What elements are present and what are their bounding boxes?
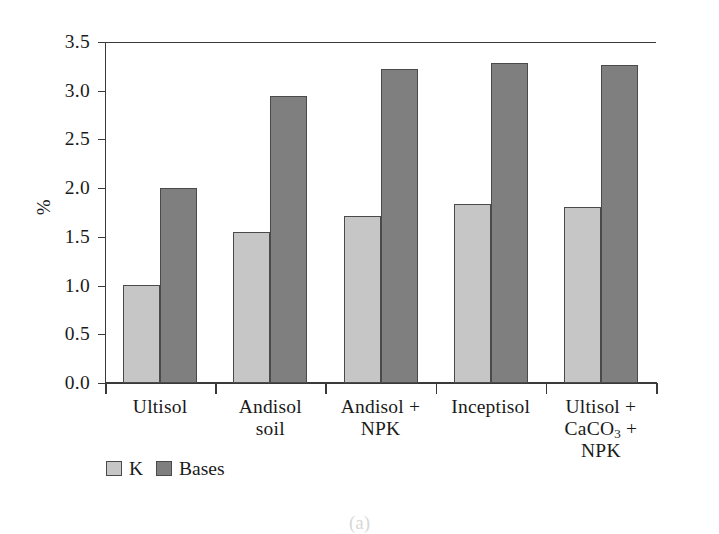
bar-bases-2 [381, 69, 418, 383]
y-tick-label: 1.0 [44, 276, 90, 296]
y-tick-label: 1.5 [44, 227, 90, 247]
x-tick-label-line: NPK [325, 418, 435, 440]
x-tick-label-line: Andisol + [325, 396, 435, 418]
x-tick-label-0: Ultisol [105, 396, 215, 418]
bars-layer [105, 42, 656, 383]
bar-bases-4 [601, 65, 638, 383]
y-tick-label: 3.5 [44, 32, 90, 52]
x-tick-label-line: CaCO3 + [546, 418, 656, 440]
bar-bases-3 [491, 63, 528, 383]
legend-entry-bases[interactable]: Bases [156, 459, 225, 479]
y-tick-label: 2.5 [44, 129, 90, 149]
x-tick-mark [656, 383, 658, 394]
y-tick-label: 0.0 [44, 373, 90, 393]
legend: KBases [106, 459, 225, 479]
x-tick-label-line: soil [215, 418, 325, 440]
bar-k-3 [454, 204, 491, 383]
x-tick-label-2: Andisol +NPK [325, 396, 435, 440]
x-tick-mark [215, 383, 217, 394]
x-tick-label-line: Andisol [215, 396, 325, 418]
bar-k-0 [123, 285, 160, 383]
light-gray-swatch [106, 461, 122, 476]
y-axis-tick-labels: 0.00.51.01.52.02.53.03.5 [44, 0, 90, 530]
bar-bases-0 [160, 188, 197, 383]
legend-entry-k[interactable]: K [106, 459, 143, 479]
x-tick-label-4: Ultisol +CaCO3 +NPK [546, 396, 656, 461]
legend-label: K [129, 459, 143, 479]
bar-k-2 [344, 216, 381, 383]
y-tick-label: 3.0 [44, 81, 90, 101]
legend-label: Bases [179, 459, 225, 479]
y-tick-label: 2.0 [44, 178, 90, 198]
bar-k-4 [564, 207, 601, 383]
x-tick-label-line: Ultisol + [546, 396, 656, 418]
x-tick-mark [325, 383, 327, 394]
y-tick-label: 0.5 [44, 324, 90, 344]
x-tick-mark [105, 383, 107, 394]
x-tick-label-line: NPK [546, 440, 656, 462]
x-tick-label-1: Andisolsoil [215, 396, 325, 440]
x-tick-label-line: Ultisol [105, 396, 215, 418]
x-tick-label-line: Inceptisol [436, 396, 546, 418]
figure-caption: (a) [0, 512, 719, 534]
x-tick-mark [546, 383, 548, 394]
bar-k-1 [233, 232, 270, 383]
bar-bases-1 [270, 96, 307, 383]
x-tick-label-3: Inceptisol [436, 396, 546, 418]
dark-gray-swatch [156, 461, 172, 476]
x-tick-mark [436, 383, 438, 394]
